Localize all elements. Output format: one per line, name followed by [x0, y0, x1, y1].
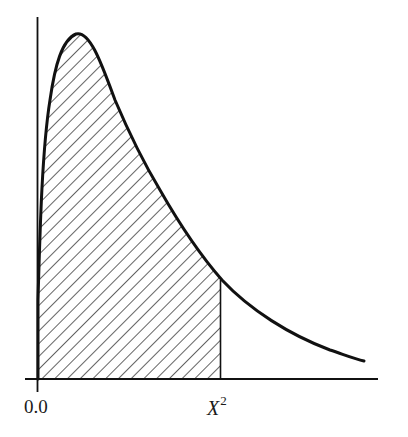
- x-tick-label-critical-value: X2: [207, 396, 227, 418]
- chi-square-chart: [0, 0, 408, 437]
- shaded-area: [38, 34, 222, 379]
- critical-value-exponent: 2: [220, 393, 227, 408]
- critical-value-symbol: X: [207, 397, 219, 419]
- x-tick-label-origin: 0.0: [24, 397, 48, 416]
